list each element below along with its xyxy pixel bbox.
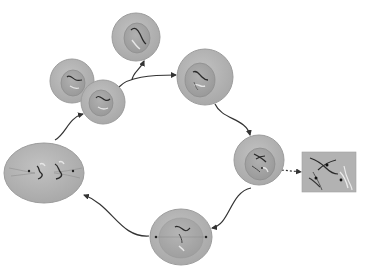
daughter-cell-b [81,80,125,124]
chromosome-detail-inset [302,152,356,192]
released-daughter-cell [112,13,160,61]
anaphase-cell [4,143,84,203]
metaphase-cell [150,209,212,265]
diagram-canvas [0,0,370,273]
daughter-cells-pair [50,59,125,124]
arrow-to-prophase [215,104,250,135]
arrow-to-daughter-cells [55,114,83,140]
arrow-to-metaphase [212,188,251,228]
cell-cycle-diagram [0,0,370,273]
arrow-to-interphase [119,75,176,87]
prophase-cell [234,135,284,185]
interphase-cell [177,49,233,105]
arrow-to-anaphase [84,195,149,236]
